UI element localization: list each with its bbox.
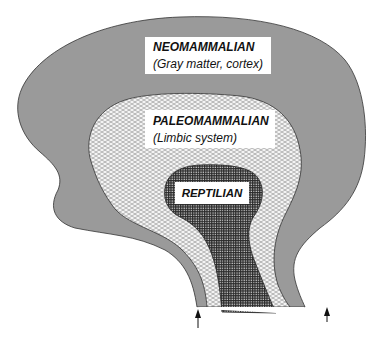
- reptilian-label: REPTILIAN: [175, 182, 249, 204]
- neomammalian-subtitle: (Gray matter, cortex): [153, 56, 271, 73]
- right-arrow-icon: [324, 307, 330, 322]
- reptilian-title: REPTILIAN: [182, 187, 243, 199]
- neomammalian-title: NEOMAMMALIAN: [153, 39, 271, 56]
- neomammalian-label: NEOMAMMALIAN (Gray matter, cortex): [145, 37, 271, 74]
- left-arrow-icon: [195, 309, 201, 328]
- paleomammalian-subtitle: (Limbic system): [153, 130, 275, 147]
- paleomammalian-title: PALEOMAMMALIAN: [153, 113, 275, 130]
- paleomammalian-label: PALEOMAMMALIAN (Limbic system): [145, 110, 275, 148]
